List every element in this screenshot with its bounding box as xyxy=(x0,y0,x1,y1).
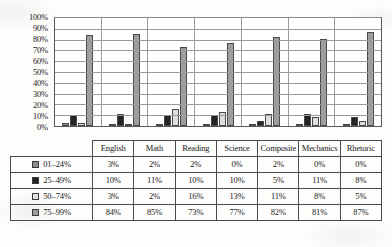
bar xyxy=(172,109,179,126)
table-cell: 3% xyxy=(93,157,134,173)
legend-swatch-icon xyxy=(32,177,39,184)
table-cell: 3% xyxy=(93,189,134,205)
table-header-row: EnglishMathReadingScienceCompositeMechan… xyxy=(11,141,382,157)
bar xyxy=(367,32,374,126)
gridline xyxy=(55,115,381,116)
table-cell: 5% xyxy=(340,189,381,205)
legend-label: 75–99% xyxy=(43,207,71,217)
legend-item-1: 25–49% xyxy=(11,173,93,189)
table-cell: 84% xyxy=(93,205,134,221)
y-axis-tick-label: 20% xyxy=(33,101,48,110)
y-axis-tick-label: 40% xyxy=(33,79,48,88)
gridline xyxy=(55,104,381,105)
column-header-reading: Reading xyxy=(175,141,216,157)
bar xyxy=(219,112,226,126)
table-cell: 77% xyxy=(216,205,257,221)
y-axis-tick-label: 70% xyxy=(33,46,48,55)
bar xyxy=(86,35,93,126)
legend-label: 50–74% xyxy=(43,191,71,201)
table-cell: 0% xyxy=(299,157,340,173)
table-row: 75–99%84%85%73%77%82%81%87% xyxy=(11,205,382,221)
legend-item-0: 01–24% xyxy=(11,157,93,173)
bar xyxy=(359,121,366,126)
table-cell: 10% xyxy=(93,173,134,189)
bar xyxy=(70,115,77,126)
legend-label: 25–49% xyxy=(43,175,71,185)
legend-swatch-icon xyxy=(32,161,39,168)
y-axis-tick-label: 60% xyxy=(33,57,48,66)
bar xyxy=(156,124,163,126)
column-header-rhetoric: Rhetoric xyxy=(340,141,381,157)
legend-item-3: 75–99% xyxy=(11,205,93,221)
legend-swatch-icon xyxy=(32,193,39,200)
legend-swatch-icon xyxy=(32,209,39,216)
table-cell: 8% xyxy=(340,173,381,189)
gridline xyxy=(55,72,381,73)
table-cell: 5% xyxy=(258,173,299,189)
column-header-composite: Composite xyxy=(258,141,299,157)
table-cell: 2% xyxy=(134,189,175,205)
bar xyxy=(133,34,140,126)
table-cell: 11% xyxy=(134,173,175,189)
legend-item-2: 50–74% xyxy=(11,189,93,205)
gridline xyxy=(55,29,381,30)
column-header-mechanics: Mechanics xyxy=(299,141,340,157)
table-cell: 0% xyxy=(216,157,257,173)
table-cell: 8% xyxy=(299,189,340,205)
table-cell: 2% xyxy=(258,157,299,173)
table-cell: 87% xyxy=(340,205,381,221)
table-cell: 13% xyxy=(216,189,257,205)
bar xyxy=(109,124,116,126)
table-row: 25–49%10%11%10%10%5%11%8% xyxy=(11,173,382,189)
y-axis-tick-label: 80% xyxy=(33,35,48,44)
table-cell: 85% xyxy=(134,205,175,221)
chart-figure: 100%90%80%70%60%50%40%30%20%10%0% Englis… xyxy=(0,0,392,247)
table-cell: 11% xyxy=(299,173,340,189)
bar xyxy=(180,47,187,126)
bar xyxy=(203,124,210,126)
table-header: EnglishMathReadingScienceCompositeMechan… xyxy=(11,141,382,157)
table-cell: 2% xyxy=(134,157,175,173)
table-corner-cell xyxy=(11,141,93,157)
table-row: 50–74%3%2%16%13%11%8%5% xyxy=(11,189,382,205)
plot-area xyxy=(54,17,382,127)
table-cell: 10% xyxy=(175,173,216,189)
column-header-science: Science xyxy=(216,141,257,157)
bar xyxy=(211,115,218,126)
bar-chart: 100%90%80%70%60%50%40%30%20%10%0% xyxy=(10,13,382,141)
table-cell: 82% xyxy=(258,205,299,221)
bar xyxy=(343,124,350,126)
gridline xyxy=(55,61,381,62)
bar xyxy=(312,117,319,126)
bar xyxy=(227,43,234,126)
y-axis-tick-label: 100% xyxy=(29,13,48,22)
y-axis-tick-label: 0% xyxy=(37,123,48,132)
table-cell: 10% xyxy=(216,173,257,189)
column-header-english: English xyxy=(93,141,134,157)
table-cell: 73% xyxy=(175,205,216,221)
y-axis-tick-label: 90% xyxy=(33,24,48,33)
table-cell: 11% xyxy=(258,189,299,205)
legend-label: 01–24% xyxy=(43,159,71,169)
data-table: EnglishMathReadingScienceCompositeMechan… xyxy=(10,140,382,221)
y-axis: 100%90%80%70%60%50%40%30%20%10%0% xyxy=(10,13,50,141)
bar xyxy=(125,124,132,126)
bar xyxy=(351,117,358,126)
bar xyxy=(249,124,256,126)
bar xyxy=(78,123,85,126)
table-cell: 0% xyxy=(340,157,381,173)
gridline xyxy=(55,94,381,95)
bar xyxy=(62,123,69,126)
bar xyxy=(164,115,171,126)
y-axis-tick-label: 10% xyxy=(33,112,48,121)
bar xyxy=(257,121,264,126)
bar xyxy=(296,124,303,126)
gridline xyxy=(55,50,381,51)
table-body: 01–24%3%2%2%0%2%0%0%25–49%10%11%10%10%5%… xyxy=(11,157,382,221)
table-cell: 16% xyxy=(175,189,216,205)
table-row: 01–24%3%2%2%0%2%0%0% xyxy=(11,157,382,173)
table-cell: 81% xyxy=(299,205,340,221)
y-axis-tick-label: 30% xyxy=(33,90,48,99)
gridline xyxy=(55,83,381,84)
gridline xyxy=(55,40,381,41)
